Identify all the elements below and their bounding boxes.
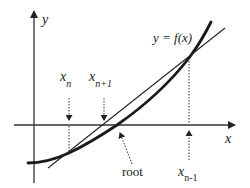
secant-method-diagram: y x y = f(x) xn xn+1 xn-1 root <box>0 0 250 188</box>
secant-line <box>48 28 225 168</box>
curve-label: y = f(x) <box>151 30 192 45</box>
x-axis-label: x <box>224 131 232 146</box>
root-label: root <box>122 164 143 179</box>
root-pointer <box>120 133 132 164</box>
x-n-label: xn <box>59 69 71 89</box>
x-n-minus-1-label: xn-1 <box>177 164 198 183</box>
y-axis-label: y <box>40 12 49 27</box>
x-n-plus-1-label: xn+1 <box>88 69 112 89</box>
